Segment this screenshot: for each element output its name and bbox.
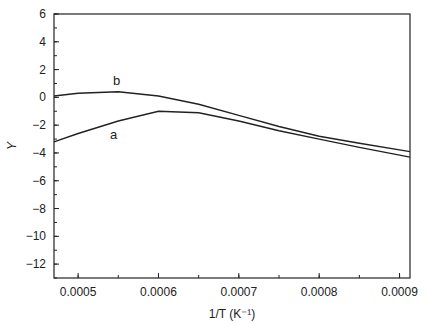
line-chart: 6420−2−4−6−8−10−120.00050.00060.00070.00… xyxy=(0,0,431,324)
label-b: b xyxy=(113,73,120,88)
x-tick-label: 0.0006 xyxy=(140,285,177,299)
series-b xyxy=(54,92,410,152)
x-tick-label: 0.0005 xyxy=(60,285,97,299)
y-tick-label: −6 xyxy=(32,174,46,188)
x-tick-label: 0.0008 xyxy=(301,285,338,299)
plot-frame xyxy=(54,14,410,278)
y-tick-label: 2 xyxy=(39,63,46,77)
y-tick-label: 4 xyxy=(39,35,46,49)
x-tick-label: 0.0007 xyxy=(220,285,257,299)
y-tick-label: −2 xyxy=(32,118,46,132)
series-a xyxy=(54,111,410,157)
x-axis-label: 1/T (K⁻¹) xyxy=(209,307,255,321)
label-a: a xyxy=(110,127,118,142)
x-tick-label: 0.0009 xyxy=(381,285,418,299)
y-tick-label: 6 xyxy=(39,7,46,21)
y-tick-label: 0 xyxy=(39,90,46,104)
y-axis-label: Y xyxy=(5,141,19,150)
y-tick-label: −12 xyxy=(26,257,47,271)
y-tick-label: −4 xyxy=(32,146,46,160)
y-tick-label: −8 xyxy=(32,202,46,216)
chart: 6420−2−4−6−8−10−120.00050.00060.00070.00… xyxy=(0,0,431,324)
y-tick-label: −10 xyxy=(26,229,47,243)
